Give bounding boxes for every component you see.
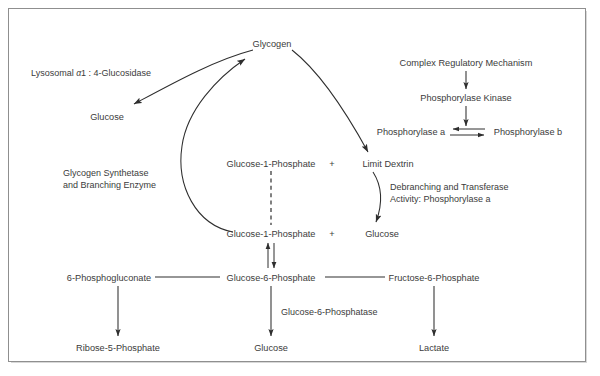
node-glucose-6-phosphate: Glucose-6-Phosphate (227, 273, 316, 283)
node-glucose-lysosomal: Glucose (90, 112, 124, 122)
node-phosphorylase-kinase: Phosphorylase Kinase (420, 93, 511, 103)
node-glucose-1-phosphate-lower: Glucose-1-Phosphate (227, 229, 316, 239)
node-lactate: Lactate (419, 343, 449, 353)
label-debranching-line1: Debranching and Transferase (390, 182, 509, 192)
node-fructose-6-phosphate: Fructose-6-Phosphate (389, 273, 480, 283)
label-glycogen-synthetase-line1: Glycogen Synthetase (63, 168, 149, 178)
node-phosphorylase-a: Phosphorylase a (377, 127, 446, 137)
pathway-diagram-page: Glycogen Glucose Glucose-1-Phosphate + L… (0, 0, 600, 376)
node-glucose-free: Glucose (254, 343, 288, 353)
edge-glycogen-to-glucose-lysosomal (134, 50, 253, 104)
edge-limit-dextrin-to-glucose (373, 172, 381, 222)
plus-sign-upper: + (329, 159, 334, 169)
edge-g1p-g6p-reversible (268, 243, 274, 268)
label-debranching-line2: Activity: Phosphorylase a (390, 194, 491, 204)
node-phosphorylase-b: Phosphorylase b (494, 127, 562, 137)
node-limit-dextrin: Limit Dextrin (362, 159, 413, 169)
pathway-diagram-svg: Glycogen Glucose Glucose-1-Phosphate + L… (0, 0, 600, 376)
label-glucose-6-phosphatase: Glucose-6-Phosphatase (281, 307, 378, 317)
edge-g1p-to-glycogen (181, 59, 245, 232)
edge-glycogen-to-limit-dextrin (292, 50, 368, 152)
node-glycogen: Glycogen (253, 39, 292, 49)
plus-sign-lower: + (329, 229, 334, 239)
label-glycogen-synthetase-line2: and Branching Enzyme (63, 180, 156, 190)
node-complex-regulatory-mechanism: Complex Regulatory Mechanism (400, 58, 533, 68)
node-ribose-5-phosphate: Ribose-5-Phosphate (76, 343, 160, 353)
node-6-phosphogluconate: 6-Phosphogluconate (67, 273, 151, 283)
label-lysosomal-glucosidase: Lysosomal α1 : 4-Glucosidase (31, 68, 151, 78)
node-glucose-debranching: Glucose (365, 229, 399, 239)
edge-phosphorylase-equilibrium (450, 129, 485, 135)
label-lysosomal-prefix: Lysosomal (31, 68, 76, 78)
node-glucose-1-phosphate-upper: Glucose-1-Phosphate (227, 159, 316, 169)
label-lysosomal-suffix: 1 : 4-Glucosidase (81, 68, 151, 78)
